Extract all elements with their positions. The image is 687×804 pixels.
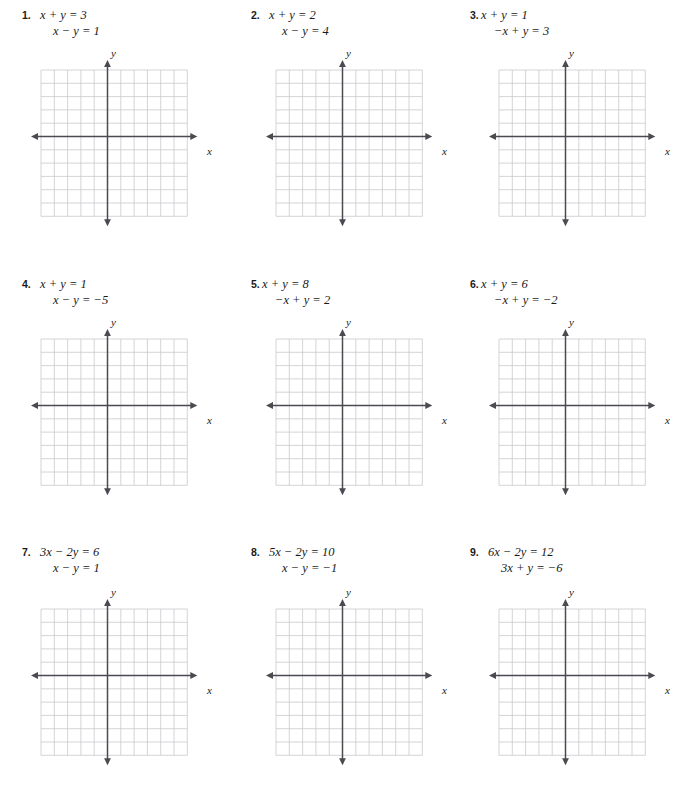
coordinate-plane-7	[23, 587, 223, 777]
graph-9[interactable]: y x	[481, 587, 681, 777]
x-axis-label-4: x	[207, 415, 212, 426]
equation-7b: x − y = 1	[40, 561, 251, 577]
problem-4-equations: x + y = 1 x − y = −5	[40, 277, 251, 308]
problem-5-statement: 5. x + y = 8 −x + y = 2	[251, 277, 480, 311]
graph-7[interactable]: y x	[23, 587, 223, 777]
equation-6b: −x + y = −2	[481, 293, 687, 309]
graph-5-canvas	[258, 317, 458, 507]
problem-1-statement: 1. x + y = 3 x − y = 1	[22, 8, 251, 42]
problem-5: 5. x + y = 8 −x + y = 2 y x	[251, 277, 480, 507]
x-axis-label-9: x	[665, 685, 670, 696]
problem-1-equations: x + y = 3 x − y = 1	[40, 8, 251, 39]
problem-1-number: 1.	[22, 8, 31, 23]
graph-4-canvas	[23, 317, 223, 507]
problem-5-equations: x + y = 8 −x + y = 2	[262, 277, 480, 308]
problem-7-statement: 7. 3x − 2y = 6 x − y = 1	[22, 545, 251, 579]
equation-2b: x − y = 4	[269, 24, 480, 40]
gridlines-8	[276, 609, 422, 755]
coordinate-plane-6	[481, 317, 681, 507]
y-axis-label-4: y	[111, 317, 116, 328]
problem-6-equations: x + y = 6 −x + y = −2	[481, 277, 687, 308]
x-axis-label-7: x	[207, 685, 212, 696]
problem-9-statement: 9. 6x − 2y = 12 3x + y = −6	[470, 545, 687, 579]
x-axis-label-8: x	[442, 685, 447, 696]
graph-1[interactable]: y x	[23, 48, 223, 238]
coordinate-plane-8	[258, 587, 458, 777]
graph-8[interactable]: y x	[258, 587, 458, 777]
equation-8a: 5x − 2y = 10	[269, 545, 480, 561]
problem-1: 1. x + y = 3 x − y = 1 y x	[22, 8, 251, 238]
equation-4b: x − y = −5	[40, 293, 251, 309]
graph-4[interactable]: y x	[23, 317, 223, 507]
equation-2a: x + y = 2	[269, 8, 480, 24]
problem-9-number: 9.	[470, 545, 479, 560]
worksheet-page: 1. x + y = 3 x − y = 1 y x 2.	[0, 0, 687, 804]
y-axis-label-7: y	[111, 587, 116, 598]
axes-5	[266, 329, 432, 495]
problem-7: 7. 3x − 2y = 6 x − y = 1 y x	[22, 545, 251, 777]
y-axis-label-6: y	[569, 317, 574, 328]
problem-3-number: 3.	[470, 8, 479, 23]
equation-1b: x − y = 1	[40, 24, 251, 40]
problem-3: 3. x + y = 1 −x + y = 3 y x	[470, 8, 687, 238]
coordinate-plane-1	[23, 48, 223, 238]
gridlines-4	[41, 339, 187, 485]
equation-4a: x + y = 1	[40, 277, 251, 293]
x-axis-label-1: x	[207, 146, 212, 157]
coordinate-plane-5	[258, 317, 458, 507]
axes-4	[31, 329, 197, 495]
graph-6[interactable]: y x	[481, 317, 681, 507]
x-axis-label-3: x	[665, 146, 670, 157]
axes-2	[266, 60, 432, 226]
graph-3-canvas	[481, 48, 681, 238]
problem-4-number: 4.	[22, 277, 31, 292]
problem-3-statement: 3. x + y = 1 −x + y = 3	[470, 8, 687, 42]
problem-7-number: 7.	[22, 545, 31, 560]
problem-5-number: 5.	[251, 277, 260, 292]
gridlines-3	[499, 70, 645, 216]
coordinate-plane-9	[481, 587, 681, 777]
coordinate-plane-2	[258, 48, 458, 238]
problem-8-number: 8.	[251, 545, 260, 560]
equation-5a: x + y = 8	[262, 277, 480, 293]
graph-6-canvas	[481, 317, 681, 507]
problem-7-equations: 3x − 2y = 6 x − y = 1	[40, 545, 251, 576]
equation-7a: 3x − 2y = 6	[40, 545, 251, 561]
axes-6	[489, 329, 655, 495]
problem-8: 8. 5x − 2y = 10 x − y = −1 y x	[251, 545, 480, 777]
problem-2-equations: x + y = 2 x − y = 4	[269, 8, 480, 39]
coordinate-plane-3	[481, 48, 681, 238]
axes-3	[489, 60, 655, 226]
problem-6-statement: 6. x + y = 6 −x + y = −2	[470, 277, 687, 311]
equation-9a: 6x − 2y = 12	[488, 545, 687, 561]
problem-4: 4. x + y = 1 x − y = −5 y x	[22, 277, 251, 507]
axes-8	[266, 599, 432, 765]
y-axis-label-9: y	[569, 587, 574, 598]
gridlines-5	[276, 339, 422, 485]
problem-3-equations: x + y = 1 −x + y = 3	[481, 8, 687, 39]
equation-3a: x + y = 1	[481, 8, 687, 24]
y-axis-label-8: y	[346, 587, 351, 598]
graph-7-canvas	[23, 587, 223, 777]
graph-2-canvas	[258, 48, 458, 238]
equation-3b: −x + y = 3	[481, 24, 687, 40]
gridlines-7	[41, 609, 187, 755]
y-axis-label-5: y	[346, 317, 351, 328]
equation-9b: 3x + y = −6	[488, 561, 687, 577]
equation-6a: x + y = 6	[481, 277, 687, 293]
problem-8-statement: 8. 5x − 2y = 10 x − y = −1	[251, 545, 480, 579]
problem-2: 2. x + y = 2 x − y = 4 y x	[251, 8, 480, 238]
problem-6: 6. x + y = 6 −x + y = −2 y x	[470, 277, 687, 507]
graph-3[interactable]: y x	[481, 48, 681, 238]
graph-2[interactable]: y x	[258, 48, 458, 238]
graph-5[interactable]: y x	[258, 317, 458, 507]
problem-9: 9. 6x − 2y = 12 3x + y = −6 y x	[470, 545, 687, 777]
equation-8b: x − y = −1	[269, 561, 480, 577]
graph-9-canvas	[481, 587, 681, 777]
axes-1	[31, 60, 197, 226]
x-axis-label-6: x	[665, 415, 670, 426]
graph-1-canvas	[23, 48, 223, 238]
y-axis-label-1: y	[111, 48, 116, 59]
equation-5b: −x + y = 2	[262, 293, 480, 309]
problem-6-number: 6.	[470, 277, 479, 292]
